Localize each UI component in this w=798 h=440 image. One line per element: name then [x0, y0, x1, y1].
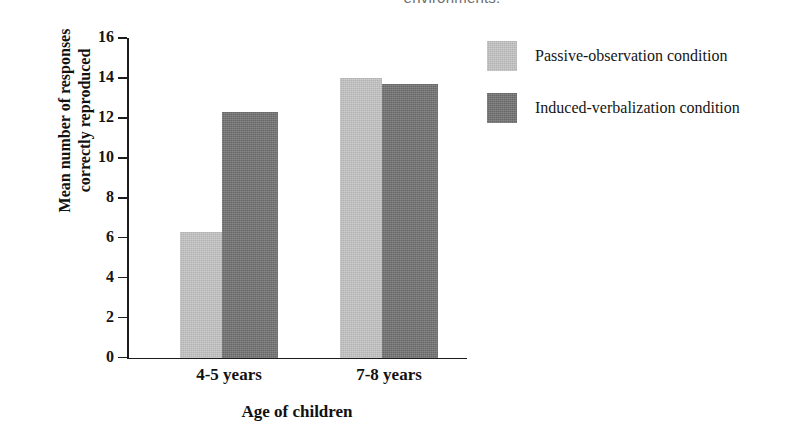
- y-axis-tick: [118, 197, 127, 199]
- y-axis-tick-label: 0: [76, 349, 114, 365]
- legend-item: Induced-verbalization condition: [487, 88, 787, 128]
- y-axis-tick-label: 2: [76, 309, 114, 325]
- bar: [222, 112, 278, 358]
- bar: [340, 78, 382, 358]
- bar: [382, 84, 438, 358]
- bar-chart: 0246810121416 4-5 years7-8 years Age of …: [0, 0, 798, 440]
- bar: [180, 232, 222, 358]
- x-axis-line: [127, 358, 467, 360]
- legend-swatch-icon: [487, 41, 517, 71]
- legend-item: Passive-observation condition: [487, 36, 787, 76]
- y-axis-tick: [118, 237, 127, 239]
- x-axis-title: Age of children: [127, 402, 467, 422]
- chart-legend: Passive-observation conditionInduced-ver…: [487, 36, 787, 140]
- y-axis-tick-label: 4: [76, 269, 114, 285]
- legend-label: Induced-verbalization condition: [535, 99, 740, 117]
- y-axis-tick: [118, 77, 127, 79]
- y-axis-tick: [118, 357, 127, 359]
- y-axis-line: [127, 38, 129, 359]
- y-axis-tick: [118, 37, 127, 39]
- y-axis-tick: [118, 157, 127, 159]
- x-axis-category-label: 4-5 years: [159, 365, 299, 385]
- y-axis-title: Mean number of responses correctly repro…: [55, 0, 96, 250]
- y-axis-tick: [118, 317, 127, 319]
- legend-swatch-icon: [487, 93, 517, 123]
- x-axis-category-label: 7-8 years: [319, 365, 459, 385]
- legend-label: Passive-observation condition: [535, 47, 727, 65]
- y-axis-tick: [118, 117, 127, 119]
- y-axis-tick: [118, 277, 127, 279]
